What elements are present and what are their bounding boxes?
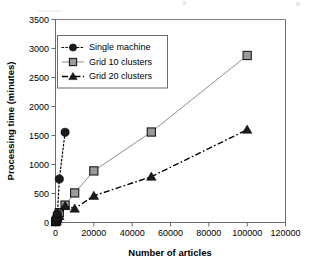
legend-label-grid-20-clusters: Grid 20 clusters: [89, 71, 153, 81]
legend-item-grid-10-clusters[interactable]: Grid 10 clusters: [62, 57, 153, 67]
legend-label-grid-10-clusters: Grid 10 clusters: [89, 57, 153, 67]
y-tick-label: 1000: [29, 160, 49, 170]
x-tick-label: 0: [53, 228, 58, 238]
data-point-single-machine: [61, 128, 69, 136]
x-tick-label: 120000: [270, 228, 300, 238]
x-tick-label: 100000: [232, 228, 262, 238]
chart-legend: Single machine Grid 10 clusters Grid 20 …: [58, 36, 168, 89]
legend-marker-circle-icon: [69, 44, 76, 51]
data-point-single-machine: [55, 175, 63, 183]
y-axis-title: Processing time (minutes): [5, 62, 16, 181]
x-tick-label: 60000: [158, 228, 183, 238]
data-point-grid-10: [71, 189, 79, 197]
y-tick-label: 500: [34, 189, 49, 199]
x-tick-label: 20000: [81, 228, 106, 238]
chart-container: 0 500 1000 1500 2000 2500 3000 3500 0 20…: [0, 0, 309, 269]
y-tick-label: 2500: [29, 73, 49, 83]
data-point-grid-10: [147, 128, 155, 136]
data-point-grid-10: [243, 51, 251, 59]
y-tick-label: 0: [44, 218, 49, 228]
legend-marker-square-icon: [69, 58, 76, 65]
x-axis-title: Number of articles: [128, 247, 211, 258]
x-tick-label: 40000: [120, 228, 145, 238]
x-tick-label: 80000: [196, 228, 221, 238]
data-point-single-machine: [53, 210, 61, 218]
processing-time-line-chart: 0 500 1000 1500 2000 2500 3000 3500 0 20…: [0, 0, 309, 269]
data-point-grid-10: [90, 167, 98, 175]
y-tick-label: 3000: [29, 44, 49, 54]
y-tick-label: 1500: [29, 131, 49, 141]
y-tick-label: 2000: [29, 102, 49, 112]
y-tick-label: 3500: [29, 15, 49, 25]
legend-label-single-machine: Single machine: [89, 42, 151, 52]
